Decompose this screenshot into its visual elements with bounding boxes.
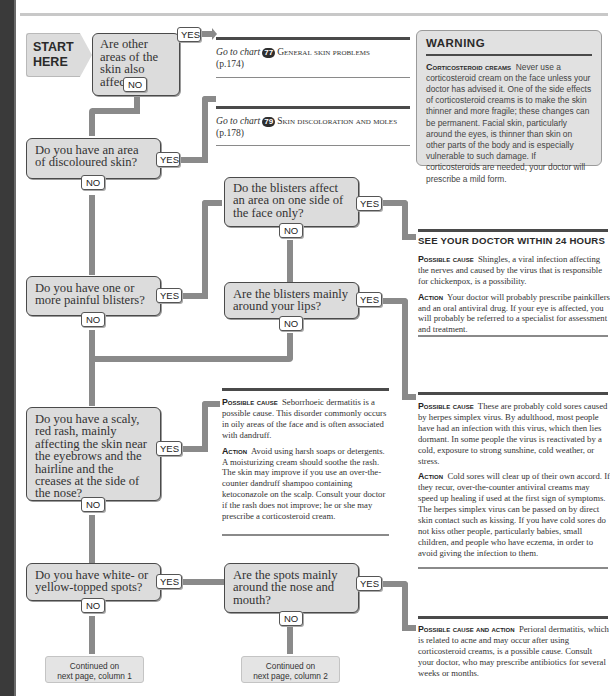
question-text: Do you have a scaly, red rash, mainly af… — [35, 412, 147, 500]
question-scaly-rash: Do you have a scaly, red rash, mainly af… — [26, 407, 161, 501]
connector-q4-no — [89, 330, 95, 406]
goto-title: Skin discoloration and moles — [277, 115, 397, 126]
here-label: HERE — [33, 55, 80, 70]
cold-sores-bottom-rule — [418, 567, 608, 569]
action-text: Your doctor will probably prescribe pain… — [418, 292, 610, 335]
seborrhoeic-bottom-rule — [222, 534, 389, 536]
perioral-top-rule — [418, 616, 608, 619]
connector-q4-yes — [202, 200, 222, 206]
cause-label: Possible cause — [418, 254, 474, 264]
cold-sores-cause: Possible cause These are probably cold s… — [418, 401, 610, 466]
connector-q7-no — [89, 616, 95, 654]
goto-chart-77-link[interactable]: Go to chart77General skin problems (p.17… — [216, 46, 412, 70]
question-text: Are the blisters mainly around your lips… — [233, 287, 348, 313]
no-button[interactable]: NO — [279, 316, 303, 331]
outcome-cold-sores: Possible cause These are probably cold s… — [418, 401, 610, 564]
shingles-action: Action Your doctor will probably prescri… — [418, 292, 610, 336]
connector-q2-no — [89, 195, 95, 275]
question-discoloured-skin: Do you have an area of discoloured skin? — [26, 138, 161, 179]
connector-q4-yes — [202, 200, 208, 299]
no-button[interactable]: NO — [279, 223, 303, 238]
chart-number-badge: 77 — [262, 48, 275, 58]
goto-chart-79-link[interactable]: Go to chart79Skin discoloration and mole… — [216, 115, 412, 139]
outcome-seborrhoeic: Possible cause Seborrhoeic dermatitis is… — [222, 397, 392, 527]
yes-button[interactable]: YES — [156, 441, 182, 456]
goto-77-top-rule — [216, 37, 410, 40]
goto-79-bottom-rule — [216, 145, 410, 146]
connector-q8-yes — [402, 625, 416, 631]
connector-q6-yes — [202, 401, 208, 452]
connector-q1-no — [89, 108, 95, 136]
yes-button[interactable]: YES — [156, 574, 182, 589]
question-painful-blisters: Do you have one or more painful blisters… — [26, 276, 161, 316]
continued-line-1: Continued on — [46, 661, 143, 671]
no-button[interactable]: NO — [279, 611, 303, 626]
cold-sores-action: Action Cold sores will clear up of their… — [418, 471, 610, 558]
no-button[interactable]: NO — [81, 175, 105, 190]
page-binding-highlight — [14, 0, 16, 696]
warning-box: WARNING Corticosteroid creams Never use … — [416, 30, 602, 166]
yes-button[interactable]: YES — [356, 196, 382, 211]
goto-77-bottom-rule — [216, 77, 410, 78]
action-text: Avoid using harsh soaps or detergents. A… — [222, 446, 385, 521]
connector-q6-yes — [202, 401, 220, 407]
connector-q1-no — [92, 108, 140, 114]
shingles-cause: Possible cause Shingles, a viral infecti… — [418, 254, 610, 287]
question-text: Do you have white- or yellow-topped spot… — [35, 568, 148, 594]
action-text: Cold sores will clear up of their own ac… — [418, 471, 610, 557]
goto-prefix: Go to chart — [216, 46, 260, 57]
continued-line-2: next page, column 2 — [242, 671, 339, 681]
action-label: Action — [418, 471, 443, 481]
warning-rule — [426, 54, 592, 56]
connector-q8-yes — [402, 581, 408, 631]
question-white-spots: Do you have white- or yellow-topped spot… — [26, 563, 161, 601]
yes-button[interactable]: YES — [156, 152, 180, 167]
continued-line-1: Continued on — [242, 661, 339, 671]
goto-79-top-rule — [216, 106, 410, 109]
cause-label: Possible cause — [222, 397, 278, 407]
outcome-shingles: SEE YOUR DOCTOR WITHIN 24 HOURS Possible… — [418, 236, 610, 340]
no-button[interactable]: NO — [123, 77, 147, 92]
goto-page: (p.174) — [216, 58, 244, 69]
connector-q5-yes — [402, 298, 408, 400]
cold-sores-top-rule — [418, 392, 608, 395]
chart-number-badge: 79 — [262, 117, 275, 127]
perioral-text-block: Possible cause and action Perioral derma… — [418, 624, 610, 679]
continued-line-2: next page, column 1 — [46, 671, 143, 681]
seborrhoeic-action: Action Avoid using harsh soaps or deterg… — [222, 446, 392, 522]
yes-button[interactable]: YES — [156, 288, 182, 303]
outcome-perioral: Possible cause and action Perioral derma… — [418, 624, 610, 684]
yes-button[interactable]: YES — [356, 292, 382, 307]
question-blisters-lips: Are the blisters mainly around your lips… — [224, 282, 359, 319]
seborrhoeic-top-rule — [222, 388, 389, 391]
start-arrow-icon — [80, 33, 92, 77]
question-text: Do the blisters affect an area on one si… — [233, 181, 343, 220]
continued-column-2[interactable]: Continued on next page, column 2 — [241, 656, 340, 683]
no-button[interactable]: NO — [81, 312, 105, 327]
warning-body: Never use a corticosteroid cream on the … — [426, 62, 591, 184]
no-button[interactable]: NO — [81, 598, 105, 613]
yes-button[interactable]: YES — [177, 27, 201, 42]
question-text: Are the spots mainly around the nose and… — [233, 568, 338, 607]
no-button[interactable]: NO — [81, 497, 105, 512]
connector-q3-no — [287, 240, 293, 282]
top-rule — [20, 13, 608, 16]
shingles-bottom-rule — [418, 335, 608, 337]
seborrhoeic-cause: Possible cause Seborrhoeic dermatitis is… — [222, 397, 392, 441]
yes-button[interactable]: YES — [356, 576, 382, 591]
connector-q5-no — [89, 356, 293, 362]
goto-prefix: Go to chart — [216, 115, 260, 126]
continued-column-1[interactable]: Continued on next page, column 1 — [45, 656, 144, 683]
start-label: START — [33, 40, 80, 55]
connector-q2-yes — [202, 96, 216, 102]
connector-q8-no — [287, 627, 293, 654]
shingles-top-rule — [418, 229, 608, 232]
question-blisters-one-side: Do the blisters affect an area on one si… — [224, 177, 359, 227]
goto-title: General skin problems — [277, 46, 370, 57]
connector-q7-yes — [180, 579, 224, 585]
cause-label: Possible cause — [418, 401, 474, 411]
action-label: Action — [418, 292, 443, 302]
goto-page: (p.178) — [216, 127, 244, 138]
start-here-marker: START HERE — [26, 33, 80, 77]
connector-q5-yes — [402, 394, 416, 400]
